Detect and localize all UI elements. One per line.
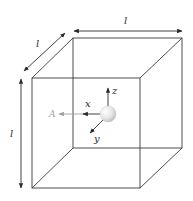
cube-diagram: l l l A x z y [0, 0, 193, 201]
z-axis-arrow: z [108, 85, 118, 106]
cube-back-face [73, 38, 182, 148]
vector-a-arrow: A [48, 109, 84, 119]
x-axis-label: x [85, 98, 91, 109]
height-label: l [10, 128, 13, 139]
particle-sphere [100, 106, 116, 122]
y-axis-label: y [93, 133, 100, 144]
height-dimension-arrow: l [10, 79, 21, 188]
x-axis-arrow: x [83, 98, 101, 114]
width-label: l [124, 15, 127, 26]
vector-a-label: A [48, 109, 56, 119]
cube-front-face [32, 78, 140, 188]
width-dimension-arrow: l [74, 15, 182, 31]
depth-label: l [36, 38, 39, 49]
y-axis-arrow: y [90, 120, 103, 144]
z-axis-label: z [111, 85, 118, 96]
